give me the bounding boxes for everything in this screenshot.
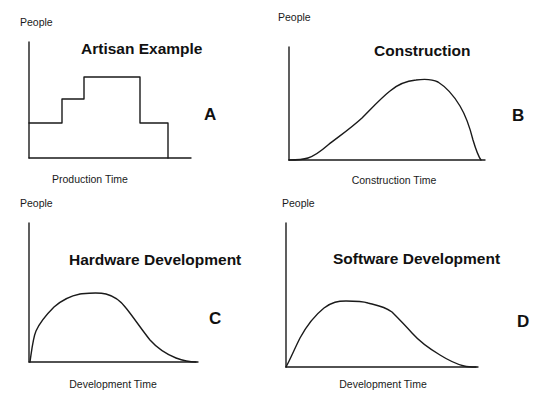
panel-b-curve [289, 79, 481, 160]
panel-a-title: Artisan Example [81, 40, 202, 58]
panel-a-step-curve [29, 77, 168, 158]
panel-c-plot [29, 223, 198, 362]
panel-c-letter: C [209, 309, 221, 329]
panel-c-title: Hardware Development [69, 251, 241, 269]
panel-d-plot [286, 223, 478, 367]
panel-d-curve [286, 301, 476, 367]
panel-a-letter: A [204, 105, 216, 125]
panel-b-x-axis-label: Construction Time [352, 174, 437, 186]
panel-a-x-axis-label: Production Time [52, 173, 128, 185]
panel-d-letter: D [517, 312, 529, 332]
panel-c-curve [30, 293, 196, 362]
panel-b-plot [289, 47, 485, 160]
panel-c-y-axis-label: People [20, 197, 53, 209]
panel-d-y-axis-label: People [282, 197, 315, 209]
panel-b-title: Construction [374, 42, 470, 60]
panel-b-y-axis-label: People [278, 11, 311, 23]
panel-b-letter: B [512, 106, 524, 126]
panel-c-x-axis-label: Development Time [69, 378, 157, 390]
panel-a-y-axis-label: People [20, 16, 53, 28]
panel-d-title: Software Development [333, 250, 500, 268]
panel-d-x-axis-label: Development Time [339, 378, 427, 390]
panel-a-plot [29, 42, 191, 158]
